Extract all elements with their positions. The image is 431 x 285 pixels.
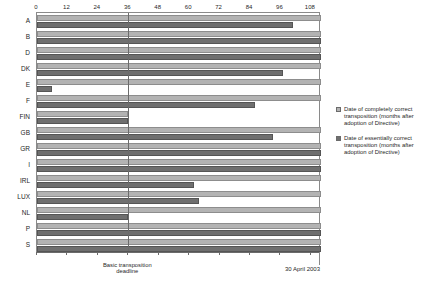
x-tick-36: [127, 252, 128, 255]
x-tick-label-72: 72: [215, 4, 222, 10]
x-tick-84: [249, 252, 250, 255]
bar-P-essentially-correct: [37, 230, 321, 236]
bar-F-essentially-correct: [37, 102, 255, 108]
chart-root: ABDDKEFFINGBGRIIRLLUXNLPS 01224364860728…: [0, 0, 431, 285]
bar-DK-essentially-correct: [37, 70, 283, 76]
y-axis-label-P: P: [26, 225, 30, 232]
bar-GR-essentially-correct: [37, 150, 321, 156]
x-tick-108: [310, 252, 311, 255]
bar-LUX-completely-correct: [37, 191, 321, 197]
y-axis-label-DK: DK: [21, 65, 30, 72]
bar-A-essentially-correct: [37, 22, 293, 28]
bar-P-completely-correct: [37, 223, 321, 229]
bar-S-essentially-correct: [37, 246, 321, 252]
y-axis-label-NL: NL: [22, 209, 30, 216]
bar-I-completely-correct: [37, 159, 321, 165]
bar-FIN-completely-correct: [37, 111, 128, 117]
y-axis-labels: ABDDKEFFINGBGRIIRLLUXNLPS: [0, 12, 34, 252]
y-axis-label-I: I: [28, 161, 30, 168]
end-of-period-caption: 30 April 2003: [285, 266, 320, 272]
bar-NL-essentially-correct: [37, 214, 128, 220]
legend-label: Date of completely correct transposition…: [344, 106, 429, 128]
legend-swatch-icon-light: [336, 107, 341, 112]
y-axis-label-B: B: [26, 33, 30, 40]
x-tick-label-84: 84: [246, 4, 253, 10]
y-axis-label-S: S: [26, 241, 30, 248]
bar-B-completely-correct: [37, 31, 321, 37]
y-axis-label-LUX: LUX: [17, 193, 30, 200]
bar-E-completely-correct: [37, 79, 321, 85]
x-tick-label-0: 0: [34, 4, 37, 10]
x-tick-label-48: 48: [154, 4, 161, 10]
y-axis-label-GR: GR: [20, 145, 30, 152]
deadline-caption: Basic transposition deadline: [72, 262, 182, 275]
x-tick-24: [97, 252, 98, 255]
bar-IRL-essentially-correct: [37, 182, 194, 188]
x-tick-60: [188, 252, 189, 255]
bar-DK-completely-correct: [37, 63, 321, 69]
bar-A-completely-correct: [37, 15, 321, 21]
bar-GR-completely-correct: [37, 143, 321, 149]
legend-swatch-icon-dark: [336, 136, 341, 141]
x-tick-label-60: 60: [185, 4, 192, 10]
x-tick-12: [66, 252, 67, 255]
x-tick-48: [158, 252, 159, 255]
bar-F-completely-correct: [37, 95, 321, 101]
deadline-line: [128, 13, 129, 251]
y-axis-label-E: E: [26, 81, 30, 88]
bars-container: [37, 13, 319, 251]
x-tick-label-108: 108: [305, 4, 315, 10]
plot-area: [36, 12, 320, 252]
bar-FIN-essentially-correct: [37, 118, 128, 124]
end-of-period-line: [319, 252, 320, 265]
x-tick-label-96: 96: [276, 4, 283, 10]
x-tick-0: [36, 252, 37, 255]
legend: Date of completely correct transposition…: [336, 106, 429, 163]
bar-E-essentially-correct: [37, 86, 52, 92]
bar-NL-completely-correct: [37, 207, 321, 213]
y-axis-label-FIN: FIN: [20, 113, 30, 120]
legend-label: Date of essentially correct transpositio…: [344, 135, 429, 157]
x-tick-72: [219, 252, 220, 255]
x-axis: [36, 252, 320, 253]
legend-item-essentially-correct: Date of essentially correct transpositio…: [336, 135, 429, 157]
bar-I-essentially-correct: [37, 166, 321, 172]
bar-GB-completely-correct: [37, 127, 321, 133]
x-tick-label-12: 12: [63, 4, 70, 10]
bar-D-essentially-correct: [37, 54, 321, 60]
bar-B-essentially-correct: [37, 38, 321, 44]
y-axis-label-D: D: [25, 49, 30, 56]
legend-item-completely-correct: Date of completely correct transposition…: [336, 106, 429, 128]
bar-S-completely-correct: [37, 239, 321, 245]
bar-D-completely-correct: [37, 47, 321, 53]
x-tick-label-24: 24: [94, 4, 101, 10]
y-axis-label-IRL: IRL: [20, 177, 30, 184]
bar-GB-essentially-correct: [37, 134, 273, 140]
x-tick-label-36: 36: [124, 4, 131, 10]
x-tick-96: [279, 252, 280, 255]
bar-LUX-essentially-correct: [37, 198, 199, 204]
y-axis-label-A: A: [26, 17, 30, 24]
y-axis-label-GB: GB: [21, 129, 30, 136]
y-axis-label-F: F: [26, 97, 30, 104]
bar-IRL-completely-correct: [37, 175, 321, 181]
